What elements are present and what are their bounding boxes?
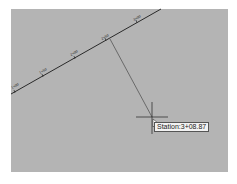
drawing-overlay: 1+00 1+50 2+00 2+50 3+00 bbox=[0, 0, 237, 184]
alignment-line[interactable] bbox=[11, 9, 161, 94]
station-tooltip: Station:3+08.87 bbox=[154, 122, 209, 132]
station-label: 2+50 bbox=[101, 34, 110, 41]
station-leader-line bbox=[110, 39, 152, 117]
station-label: 2+00 bbox=[70, 50, 79, 57]
station-label: 1+00 bbox=[11, 83, 20, 90]
